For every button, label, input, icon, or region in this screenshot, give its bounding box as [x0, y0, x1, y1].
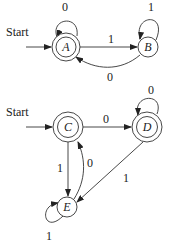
state-b-label: B [144, 40, 152, 54]
state-e-label: E [62, 200, 71, 214]
edge-e-to-c [74, 142, 84, 199]
edge-label-a-self: 0 [62, 0, 68, 14]
state-d: D [132, 112, 162, 142]
start-label-c: Start [6, 105, 29, 119]
edge-label-d-self: 0 [148, 83, 154, 97]
state-c-label: C [64, 120, 73, 134]
edge-label-b-to-a: 0 [107, 70, 113, 84]
automaton-1: Start 0 1 1 0 A B [6, 0, 159, 84]
automaton-2: Start 0 0 1 0 1 1 C D [6, 83, 162, 243]
edge-label-e-self: 1 [46, 229, 52, 243]
dfa-diagram: Start 0 1 1 0 A B Start 0 [0, 0, 172, 246]
edge-label-c-to-e: 1 [57, 161, 63, 175]
edge-label-d-to-e: 1 [123, 171, 129, 185]
edge-label-e-to-c: 0 [87, 156, 93, 170]
state-c: C [53, 112, 83, 142]
edge-label-a-to-b: 1 [108, 32, 114, 46]
state-b: B [138, 37, 158, 57]
state-a-label: A [61, 40, 70, 54]
state-a: A [52, 33, 80, 61]
edge-d-to-e [77, 142, 143, 202]
state-d-label: D [142, 120, 152, 134]
edge-label-b-self: 1 [148, 0, 154, 14]
edge-label-c-to-d: 0 [103, 112, 109, 126]
edge-b-to-a [76, 55, 140, 67]
state-e: E [57, 197, 77, 217]
start-label-a: Start [6, 25, 29, 39]
